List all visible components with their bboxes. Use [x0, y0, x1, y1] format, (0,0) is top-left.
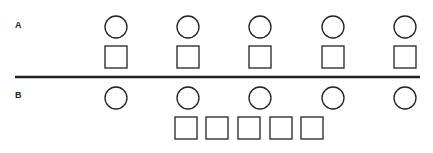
- row-a-circle: [394, 16, 416, 38]
- row-a-square: [105, 46, 127, 68]
- row-a-square: [249, 46, 271, 68]
- row-b-circle: [105, 87, 127, 109]
- row-b-square: [206, 117, 228, 139]
- row-a-circle: [177, 16, 199, 38]
- row-a-circle: [249, 16, 271, 38]
- row-a-square: [394, 46, 416, 68]
- row-b-circle: [177, 87, 199, 109]
- diagram-canvas: [0, 0, 433, 153]
- row-b-square: [270, 117, 292, 139]
- row-a-square: [322, 46, 344, 68]
- row-b-square: [238, 117, 260, 139]
- row-a-circle: [322, 16, 344, 38]
- row-a-square: [177, 46, 199, 68]
- row-b-circle: [249, 87, 271, 109]
- row-b-circle: [322, 87, 344, 109]
- row-b-square: [175, 117, 197, 139]
- row-b-circle: [394, 87, 416, 109]
- row-a-circle: [105, 16, 127, 38]
- row-b-square: [301, 117, 323, 139]
